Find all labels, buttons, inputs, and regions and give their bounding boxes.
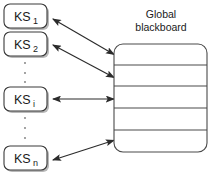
diagram-canvas: KS 1 KS 2 KS i KS n: [0, 0, 212, 176]
ks2-label: KS: [14, 38, 31, 52]
blackboard-architecture-diagram: KS 1 KS 2 KS i KS n: [0, 0, 212, 176]
blackboard-panel-outline[interactable]: [114, 44, 207, 152]
ks1-label: KS: [14, 10, 31, 24]
knowledge-source-ksn[interactable]: KS n: [4, 146, 49, 172]
ellipsis-upper: [24, 62, 26, 83]
knowledge-source-ks1[interactable]: KS 1: [4, 4, 49, 30]
ellipsis-dot: [24, 62, 26, 64]
blackboard-title-line1: Global: [146, 8, 176, 20]
ksn-subscript: n: [33, 158, 38, 168]
ellipsis-dot: [24, 81, 26, 83]
global-blackboard[interactable]: Global blackboard: [114, 8, 207, 152]
ellipsis-dot: [24, 127, 26, 129]
ks1-subscript: 1: [33, 16, 38, 26]
ksi-subscript: i: [33, 99, 35, 109]
ellipsis-dot: [24, 137, 26, 139]
ellipsis-dot: [24, 72, 26, 74]
ksn-label: KS: [14, 152, 31, 166]
connector-ksn: [53, 140, 115, 160]
ellipsis-lower: [24, 117, 26, 139]
knowledge-source-ks2[interactable]: KS 2: [4, 32, 49, 58]
ksi-label: KS: [14, 93, 31, 107]
blackboard-title-line2: blackboard: [135, 21, 187, 33]
knowledge-source-ksi[interactable]: KS i: [4, 87, 49, 113]
ks2-subscript: 2: [33, 44, 38, 54]
ellipsis-dot: [24, 117, 26, 119]
connector-group: [53, 19, 115, 160]
